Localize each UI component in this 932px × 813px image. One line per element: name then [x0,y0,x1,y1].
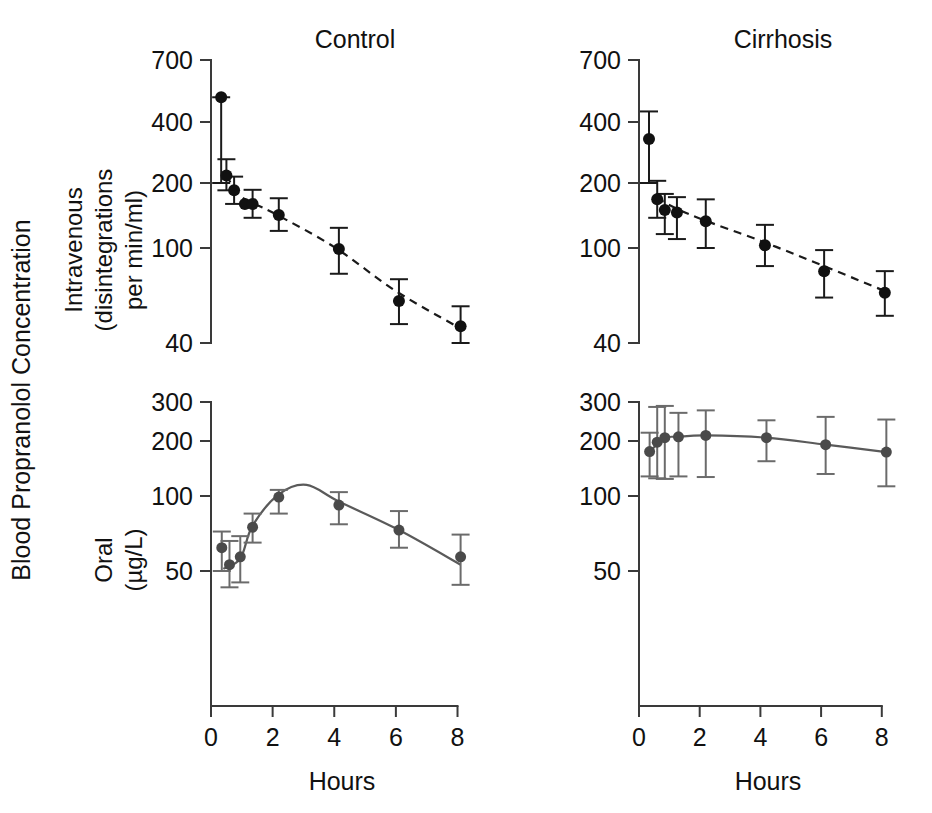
data-point [273,492,284,503]
data-point [818,265,830,277]
panel-title-control: Control [315,25,396,53]
y-tick-label: 40 [165,329,193,357]
y-tick-label: 50 [165,557,193,585]
data-point [700,215,712,227]
data-point [235,551,246,562]
data-point [273,209,285,221]
y-tick-label: 100 [151,234,193,262]
x-tick-label: 2 [693,723,707,751]
y-tick-label: 300 [151,388,193,416]
data-point [224,559,235,570]
x-tick-label: 2 [266,723,280,751]
data-point [216,542,227,553]
y-tick-label: 300 [579,388,621,416]
y-tick-label: 400 [151,108,193,136]
y-tick-label: 40 [593,329,621,357]
data-point [393,525,404,536]
data-point [247,522,258,533]
data-point [333,500,344,511]
figure-root: Blood Propranolol Concentration Intraven… [0,0,932,813]
data-point [673,431,684,442]
data-point [879,287,891,299]
x-axis-label-left: Hours [309,767,376,795]
row-label-intravenous-line2: (disintegrations [90,169,117,332]
data-point [644,446,655,457]
data-point [700,430,711,441]
y-tick-label: 200 [151,427,193,455]
y-tick-label: 700 [579,46,621,74]
propranolol-figure: Blood Propranolol Concentration Intraven… [0,0,932,813]
x-tick-label: 0 [632,723,646,751]
row-label-intravenous-line3: per min/ml) [120,190,147,310]
data-point [333,243,345,255]
y-tick-label: 200 [151,169,193,197]
data-point [881,447,892,458]
x-tick-label: 6 [814,723,828,751]
data-point [643,133,655,145]
data-point [228,184,240,196]
row-label-oral-line2: (µg/L) [120,528,147,591]
y-tick-label: 700 [151,46,193,74]
row-label-intravenous-line1: Intravenous [60,187,87,312]
x-tick-label: 8 [875,723,889,751]
y-tick-label: 100 [151,482,193,510]
x-tick-label: 8 [451,723,465,751]
data-point [455,320,467,332]
row-label-intravenous: Intravenous (disintegrations per min/ml) [60,169,147,332]
y-tick-label: 50 [593,557,621,585]
y-tick-label: 200 [579,169,621,197]
x-tick-label: 0 [204,723,218,751]
y-tick-label: 400 [579,108,621,136]
data-point [671,207,683,219]
data-point [455,551,466,562]
x-tick-label: 4 [753,723,767,751]
y-tick-label: 200 [579,427,621,455]
outer-y-axis-label: Blood Propranolol Concentration [7,219,35,580]
data-point [247,198,259,210]
data-point [659,432,670,443]
x-tick-label: 4 [327,723,341,751]
data-point [820,439,831,450]
panel-title-cirrhosis: Cirrhosis [734,25,833,53]
row-label-oral-line1: Oral [90,537,117,582]
x-tick-label: 6 [389,723,403,751]
y-tick-label: 100 [579,234,621,262]
data-point [215,91,227,103]
y-tick-label: 100 [579,482,621,510]
data-point [393,295,405,307]
figure-background [0,0,932,813]
x-axis-label-right: Hours [735,767,802,795]
data-point [220,169,232,181]
data-point [659,204,671,216]
data-point [761,432,772,443]
data-point [651,193,663,205]
data-point [759,239,771,251]
